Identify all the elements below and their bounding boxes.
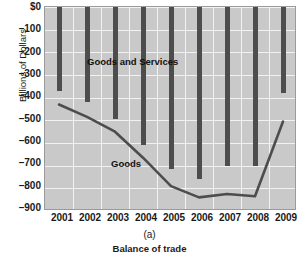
y-axis-tick: –500	[1, 114, 41, 124]
x-axis-tick: 2006	[191, 212, 213, 223]
annotation-goods-and-services: Goods and Services	[87, 56, 178, 67]
x-axis-tick-group: 2001 2002 2003 2004 2005 2006 2007 2008 …	[44, 212, 296, 228]
y-axis-tick: –900	[1, 203, 41, 213]
x-axis-tick: 2008	[247, 212, 269, 223]
y-axis-tick: –200	[1, 47, 41, 57]
x-axis-tick: 2009	[275, 212, 297, 223]
figure-balance-of-trade: Billions of Dollars $0 –100 –200 –300 –4…	[0, 0, 299, 254]
y-axis-tick-group: $0 –100 –200 –300 –400 –500 –600 –700 –8…	[0, 0, 41, 215]
x-axis-tick: 2007	[219, 212, 241, 223]
y-axis-tick: $0	[1, 2, 41, 12]
figure-caption: Balance of trade	[0, 243, 299, 254]
y-axis-tick: –300	[1, 69, 41, 79]
y-axis-tick: –800	[1, 181, 41, 191]
y-axis-tick: –400	[1, 91, 41, 101]
y-axis-tick: –700	[1, 158, 41, 168]
plot-area: Goods and Services Goods	[44, 6, 296, 210]
x-axis-tick: 2001	[51, 212, 73, 223]
x-axis-tick: 2004	[135, 212, 157, 223]
y-axis-tick: –600	[1, 136, 41, 146]
x-axis-tick: 2002	[79, 212, 101, 223]
x-axis-tick: 2005	[163, 212, 185, 223]
panel-label: (a)	[0, 229, 299, 240]
annotation-goods: Goods	[111, 158, 141, 169]
x-axis-tick: 2003	[107, 212, 129, 223]
line-series-goods	[45, 7, 296, 210]
y-axis-tick: –100	[1, 24, 41, 34]
